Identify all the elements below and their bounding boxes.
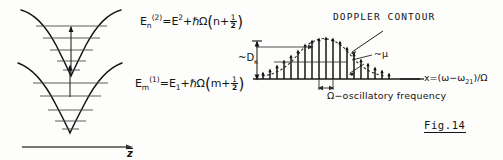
eq-hbar-omega: ℏΩ xyxy=(190,77,205,90)
eq-quantum-number: n xyxy=(213,15,220,28)
x-axis-label: x=(ω−ω21)/Ω xyxy=(424,73,488,85)
eq-inner-plus: + xyxy=(220,15,229,28)
spectral-stick xyxy=(324,36,327,79)
spectral-stick xyxy=(296,50,299,79)
spectral-stick xyxy=(387,73,390,79)
z-axis-label: z xyxy=(127,148,133,159)
eq-paren-close: ) xyxy=(239,75,245,93)
spectral-stick xyxy=(303,44,306,79)
spectral-stick xyxy=(289,55,292,79)
eq-equals: = xyxy=(160,77,169,90)
eq-half-fraction: 12 xyxy=(230,14,237,30)
spectral-stick xyxy=(282,60,285,79)
spectral-stick xyxy=(352,53,355,79)
upper-potential-well xyxy=(21,10,121,76)
spectral-stick xyxy=(317,38,320,79)
eq-paren-close: ) xyxy=(237,13,243,31)
upper-level-equation: En(2)=E2+ℏΩ(n+12) xyxy=(140,14,243,30)
omega-spacing-indicator xyxy=(318,79,335,90)
omega-spacing-caption: Ω−oscillatory frequency xyxy=(327,91,446,101)
spectral-stick xyxy=(310,40,313,79)
eq-lhs: En(2) xyxy=(140,15,162,28)
doppler-width-label: ~Dκ xyxy=(238,53,258,66)
mu-annotation-label: ~μ xyxy=(374,49,388,59)
lower-level-equation: Em(1)=E1+ℏΩ(m+12) xyxy=(135,76,244,92)
eq-lhs: Em(1) xyxy=(135,77,160,90)
eq-plus: + xyxy=(181,77,190,90)
eq-paren-open: ( xyxy=(207,13,213,31)
eq-equals: = xyxy=(162,15,171,28)
z-axis xyxy=(22,144,133,149)
doppler-contour-title: DOPPLER CONTOUR xyxy=(333,12,435,22)
eq-half-fraction: 12 xyxy=(231,76,238,92)
lower-potential-well xyxy=(18,63,122,133)
spectral-stick xyxy=(331,38,334,79)
eq-inner-plus: + xyxy=(221,77,230,90)
eq-term-E: E xyxy=(169,77,176,90)
eq-hbar-omega: ℏΩ xyxy=(192,15,207,28)
figure-caption: Fig.14 xyxy=(424,120,466,133)
eq-quantum-number: m xyxy=(211,77,222,90)
figure-14-container: En(2)=E2+ℏΩ(n+12) Em(1)=E1+ℏΩ(m+12) z DO… xyxy=(0,0,503,160)
spectral-stick xyxy=(380,70,383,79)
spectral-stick xyxy=(268,69,271,79)
eq-paren-open: ( xyxy=(205,75,211,93)
spectral-stick xyxy=(338,41,341,79)
spectral-stick xyxy=(359,59,362,79)
eq-plus: + xyxy=(183,15,192,28)
spectral-sticks-group xyxy=(261,36,390,79)
